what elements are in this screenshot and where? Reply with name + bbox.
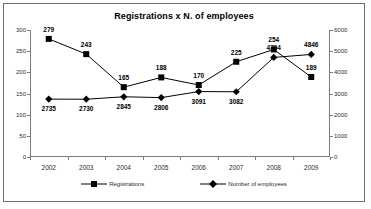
data-point-label: 170 <box>179 72 219 79</box>
data-point-marker <box>196 82 202 88</box>
data-point-label: 188 <box>141 64 181 71</box>
data-point-marker <box>45 96 52 103</box>
right-tick <box>330 30 333 31</box>
left-tick-label: 300 <box>4 27 26 33</box>
chart-legend: Registrations Number of employees <box>4 180 364 188</box>
left-tick-label: 200 <box>4 69 26 75</box>
data-point-label: 3082 <box>216 98 256 105</box>
data-point-marker <box>83 51 89 57</box>
data-point-marker <box>308 74 314 80</box>
x-tick <box>30 157 31 160</box>
legend-item-registrations[interactable]: Registrations <box>81 180 144 188</box>
right-tick-label: 4000 <box>334 69 358 75</box>
plot-area: 050100150200250300 010002000300040005000… <box>30 30 330 157</box>
data-point-label: 165 <box>104 74 144 81</box>
data-point-label: 225 <box>216 49 256 56</box>
right-tick-label: 5000 <box>334 48 358 54</box>
legend-label-registrations: Registrations <box>109 181 144 188</box>
x-tick <box>180 157 181 160</box>
left-tick-label: 100 <box>4 112 26 118</box>
legend-label-number-of-employees: Number of employees <box>228 181 287 188</box>
data-point-marker <box>233 59 239 65</box>
data-point-label: 2735 <box>29 105 69 112</box>
x-axis-label: 2006 <box>179 164 219 171</box>
right-tick <box>330 94 333 95</box>
x-tick <box>143 157 144 160</box>
chart-title: Registrations x N. of employees <box>4 11 364 21</box>
right-tick-label: 1000 <box>334 133 358 139</box>
legend-marker-square-icon <box>81 180 107 188</box>
data-point-marker <box>121 84 127 90</box>
right-tick <box>330 51 333 52</box>
right-tick-label: 0 <box>334 154 358 160</box>
left-tick-label: 0 <box>4 154 26 160</box>
data-point-label: 4846 <box>291 41 331 48</box>
x-tick <box>293 157 294 160</box>
legend-marker-diamond-icon <box>200 180 226 188</box>
x-tick <box>105 157 106 160</box>
x-axis-label: 2008 <box>254 164 294 171</box>
right-tick <box>330 136 333 137</box>
chart-container: Registrations x N. of employees 05010015… <box>3 3 365 202</box>
right-tick <box>330 72 333 73</box>
x-axis-label: 2003 <box>66 164 106 171</box>
x-axis-label: 2007 <box>216 164 256 171</box>
legend-item-number-of-employees[interactable]: Number of employees <box>200 180 287 188</box>
data-point-label: 279 <box>29 26 69 33</box>
right-tick <box>330 115 333 116</box>
data-point-marker <box>158 74 164 80</box>
x-tick <box>68 157 69 160</box>
right-tick-label: 2000 <box>334 112 358 118</box>
left-tick-label: 150 <box>4 91 26 97</box>
data-point-marker <box>195 88 202 95</box>
right-tick-label: 6000 <box>334 27 358 33</box>
data-point-label: 2730 <box>66 105 106 112</box>
x-axis-label: 2004 <box>104 164 144 171</box>
left-tick-label: 50 <box>4 133 26 139</box>
x-axis-label: 2009 <box>291 164 331 171</box>
data-point-label: 4704 <box>254 44 294 51</box>
data-point-marker <box>46 36 52 42</box>
data-point-label: 254 <box>254 36 294 43</box>
data-point-label: 2806 <box>141 104 181 111</box>
data-point-marker <box>83 96 90 103</box>
data-point-label: 189 <box>291 64 331 71</box>
data-point-label: 3091 <box>179 98 219 105</box>
x-tick <box>255 157 256 160</box>
data-point-marker <box>308 51 315 58</box>
data-point-marker <box>120 93 127 100</box>
x-tick <box>330 157 331 160</box>
x-tick <box>218 157 219 160</box>
data-point-marker <box>158 94 165 101</box>
data-point-label: 243 <box>66 41 106 48</box>
left-tick-label: 250 <box>4 48 26 54</box>
data-point-label: 2845 <box>104 103 144 110</box>
right-tick-label: 3000 <box>334 91 358 97</box>
x-axis-label: 2005 <box>141 164 181 171</box>
x-axis-label: 2002 <box>29 164 69 171</box>
